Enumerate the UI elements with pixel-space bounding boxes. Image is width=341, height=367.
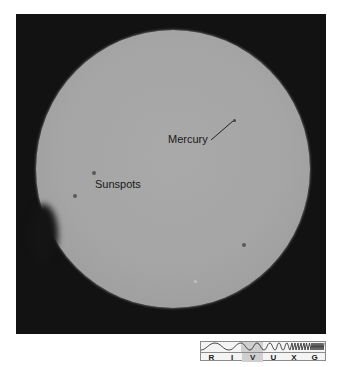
band-xray: X: [284, 353, 305, 362]
mercury-pointer-line: [16, 14, 326, 334]
band-ultraviolet: U: [263, 353, 284, 362]
sunspots-label: Sunspots: [95, 178, 141, 190]
band-gamma: G: [304, 353, 325, 362]
sun-photograph: Mercury Sunspots: [16, 14, 326, 334]
band-radio: R: [201, 353, 222, 362]
band-infrared: I: [222, 353, 243, 362]
band-labels: R I V U X G: [201, 352, 325, 362]
wavelength-wave-icon: [201, 342, 325, 352]
mercury-label: Mercury: [168, 133, 208, 145]
spectrum-bar: R I V U X G: [200, 341, 326, 361]
band-visible: V: [242, 353, 263, 362]
